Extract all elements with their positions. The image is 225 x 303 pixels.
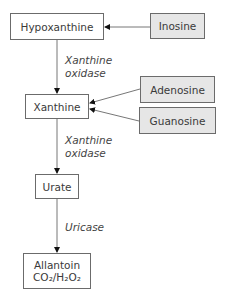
node-guanosine-label: Guanosine <box>150 115 206 127</box>
node-allantoin: Allantoin CO₂/H₂O₂ <box>23 253 91 289</box>
enzyme-label-uricase: Uricase <box>65 221 104 234</box>
node-allantoin-products: CO₂/H₂O₂ <box>33 271 81 283</box>
node-inosine: Inosine <box>150 13 205 39</box>
node-hypoxanthine: Hypoxanthine <box>10 13 104 40</box>
node-guanosine: Guanosine <box>139 107 216 134</box>
node-urate-label: Urate <box>42 181 71 193</box>
enzyme-line2: oxidase <box>65 67 112 80</box>
enzyme-line1: Xanthine <box>65 54 112 67</box>
node-allantoin-label: Allantoin <box>34 259 80 271</box>
node-inosine-label: Inosine <box>159 20 197 32</box>
node-adenosine-label: Adenosine <box>150 84 205 96</box>
node-hypoxanthine-label: Hypoxanthine <box>21 21 94 33</box>
node-adenosine: Adenosine <box>140 76 215 103</box>
enzyme-label-xanthine-oxidase-1: Xanthine oxidase <box>65 54 112 79</box>
enzyme-line1: Uricase <box>65 221 104 234</box>
arrow-guanosine-to-xanthine <box>90 109 139 121</box>
node-xanthine-label: Xanthine <box>33 101 80 113</box>
enzyme-line1: Xanthine <box>65 134 112 147</box>
enzyme-line2: oxidase <box>65 147 112 160</box>
enzyme-label-xanthine-oxidase-2: Xanthine oxidase <box>65 134 112 159</box>
node-urate: Urate <box>35 174 79 199</box>
arrow-adenosine-to-xanthine <box>90 89 140 103</box>
node-xanthine: Xanthine <box>25 94 89 119</box>
